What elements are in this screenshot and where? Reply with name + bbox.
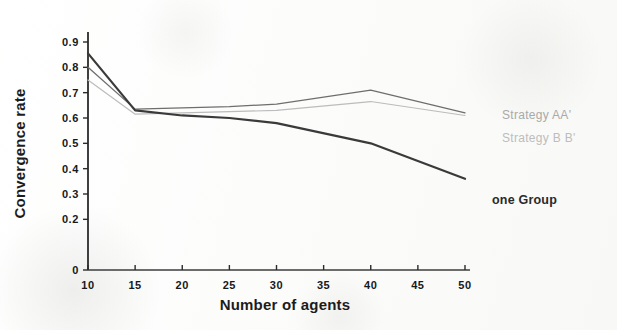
x-axis-tick-label: 15 xyxy=(128,279,141,291)
y-axis-tick-label: 0.4 xyxy=(62,163,79,175)
x-axis-tick-label: 10 xyxy=(81,279,94,291)
x-axis-tick-label: 50 xyxy=(458,279,471,291)
x-axis-tick-label: 30 xyxy=(270,279,283,291)
y-axis-tick-label: 0.7 xyxy=(62,87,79,99)
x-axis-tick-label: 45 xyxy=(411,279,424,291)
series-label-strategy-bb: Strategy B B' xyxy=(502,131,576,145)
y-axis-tick-label: 0.6 xyxy=(62,112,79,124)
x-axis-tick-label: 40 xyxy=(364,279,377,291)
y-axis-tick-label: 0.2 xyxy=(62,213,79,225)
y-axis-tick-label: 0.8 xyxy=(62,61,79,73)
y-axis-tick-label: 0.9 xyxy=(62,36,79,48)
y-axis-title: Convergence rate xyxy=(11,74,28,234)
series-line-strategy-b-b xyxy=(88,80,465,115)
x-axis-title: Number of agents xyxy=(190,296,380,313)
x-axis-tick-label: 35 xyxy=(317,279,330,291)
series-label-one-group: one Group xyxy=(492,193,557,207)
series-line-strategy-aa xyxy=(88,67,465,113)
y-axis-tick-label: 0.5 xyxy=(62,137,79,149)
y-axis-tick-label: 0 xyxy=(72,264,79,276)
series-line-one-group xyxy=(88,53,465,178)
x-axis-ticks xyxy=(88,265,465,270)
series-label-strategy-aa: Strategy AA' xyxy=(502,108,571,122)
chart-figure: 00.20.30.40.50.60.70.80.9 10152025303540… xyxy=(0,0,617,330)
axis-lines xyxy=(88,32,470,270)
series-lines xyxy=(88,53,465,178)
x-axis-tick-label: 25 xyxy=(223,279,236,291)
y-axis-tick-label: 0.3 xyxy=(62,188,79,200)
x-axis-tick-label: 20 xyxy=(176,279,189,291)
